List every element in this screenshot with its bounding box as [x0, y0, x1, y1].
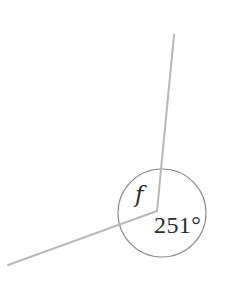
upper-ray	[157, 35, 174, 211]
geometry-figure	[0, 0, 227, 292]
unknown-angle-label: f	[135, 183, 144, 206]
reflex-angle-label: 251°	[154, 213, 201, 237]
lower-left-ray	[8, 211, 157, 265]
angle-diagram: 251° f	[0, 0, 227, 292]
